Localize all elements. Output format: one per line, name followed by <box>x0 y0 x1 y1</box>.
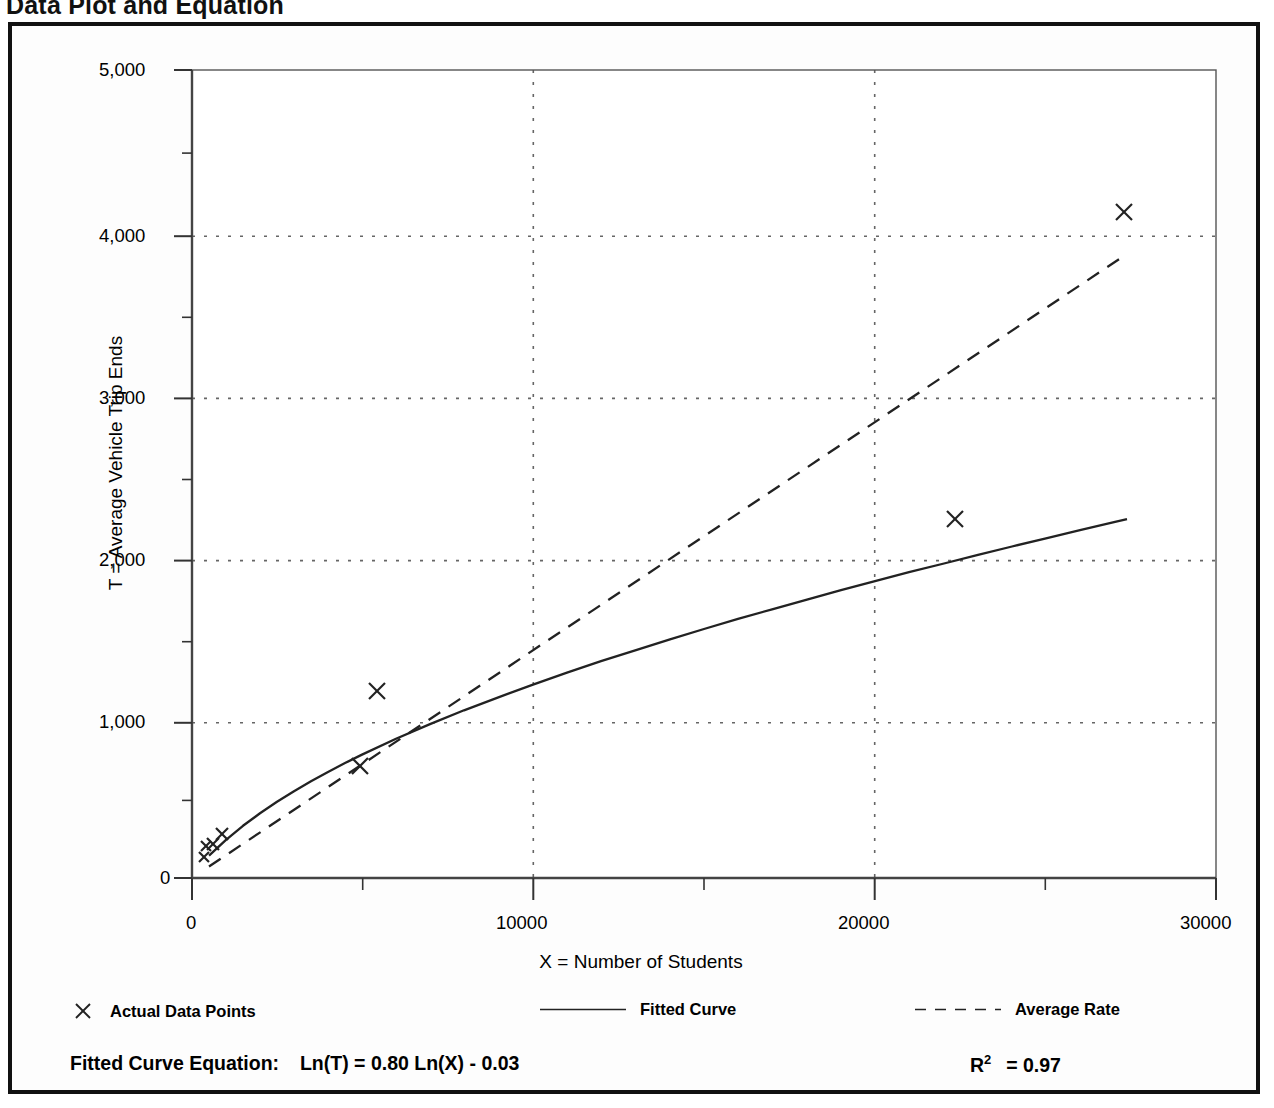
legend-item-fitted-curve: Fitted Curve <box>540 1000 736 1019</box>
ytick-label-5000: 5,000 <box>99 59 145 81</box>
y-axis-title: T = Average Vehicle Trip Ends <box>105 263 127 663</box>
r-squared-symbol: R <box>970 1054 984 1076</box>
equation-label: Fitted Curve Equation: <box>70 1052 279 1074</box>
equation-row: Fitted Curve Equation: Ln(T) = 0.80 Ln(X… <box>70 1052 1220 1090</box>
legend-label-average-rate: Average Rate <box>1015 1000 1120 1019</box>
xtick-label-0: 0 <box>186 912 196 934</box>
equation-formula: Ln(T) = 0.80 Ln(X) - 0.03 <box>300 1052 519 1074</box>
xtick-label-30000: 30000 <box>1180 912 1231 934</box>
r-squared-value: R2 = 0.97 <box>970 1052 1061 1077</box>
fitted-curve-equation: Fitted Curve Equation: Ln(T) = 0.80 Ln(X… <box>70 1052 519 1075</box>
legend: Actual Data Points Fitted Curve Average … <box>70 996 1210 1036</box>
dashed-line-icon <box>915 1008 1001 1011</box>
solid-line-icon <box>540 1008 626 1011</box>
page-title: Data Plot and Equation <box>6 0 284 20</box>
legend-label-fitted-curve: Fitted Curve <box>640 1000 736 1019</box>
figure-root: Data Plot and Equation <box>0 0 1274 1108</box>
xtick-label-10000: 10000 <box>496 912 547 934</box>
legend-item-actual-data-points: Actual Data Points <box>70 1000 256 1022</box>
r-squared-exponent: 2 <box>984 1052 991 1067</box>
x-axis-title-text: X = Number of Students <box>539 951 742 972</box>
x-marker-icon <box>70 1000 96 1022</box>
xtick-label-20000: 20000 <box>838 912 889 934</box>
ytick-label-0: 0 <box>160 867 170 889</box>
y-axis-title-holder: T = Average Vehicle Trip Ends <box>66 200 106 740</box>
r-squared-number: = 0.97 <box>1006 1054 1061 1076</box>
legend-item-average-rate: Average Rate <box>915 1000 1120 1019</box>
legend-label-actual-data-points: Actual Data Points <box>110 1002 256 1021</box>
x-axis-title: X = Number of Students <box>0 951 1274 973</box>
